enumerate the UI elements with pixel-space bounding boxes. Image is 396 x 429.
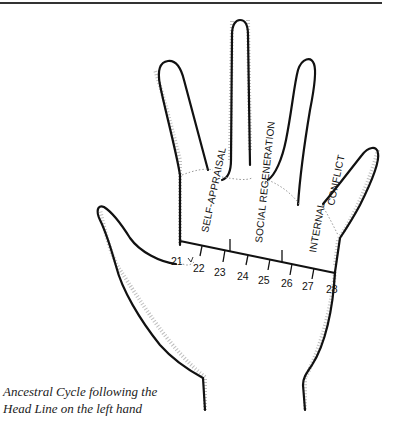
age-21: 21: [171, 255, 183, 267]
age-22: 22: [193, 262, 205, 274]
hand-shading: [100, 20, 378, 410]
hand-diagram: 21 22 23 24 25 26 27 28 SELF-APPRAISAL S…: [0, 0, 396, 429]
age-26: 26: [281, 277, 293, 289]
caption-line-1: Ancestral Cycle following the: [3, 383, 157, 400]
label-social-regeneration: SOCIAL REGENERATION: [253, 121, 277, 244]
thumb-outline: [98, 206, 205, 410]
age-27: 27: [302, 280, 314, 292]
index-finger-outline: [159, 61, 208, 245]
figure-caption: Ancestral Cycle following the Head Line …: [3, 383, 157, 417]
age-24: 24: [237, 270, 249, 282]
age-23: 23: [214, 266, 226, 278]
age-25: 25: [258, 274, 270, 286]
hand-outline: [98, 20, 379, 410]
label-self-appraisal: SELF-APPRAISAL: [199, 146, 228, 233]
region-labels: SELF-APPRAISAL SOCIAL REGENERATION INTER…: [199, 121, 346, 254]
label-internal: INTERNAL: [307, 201, 327, 253]
little-finger-outline: [323, 148, 378, 272]
age-28: 28: [326, 283, 338, 295]
caption-line-2: Head Line on the left hand: [3, 400, 157, 417]
